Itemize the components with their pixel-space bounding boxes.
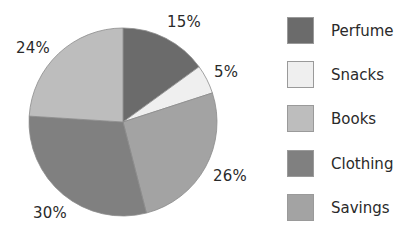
- legend-swatch-books: [287, 105, 314, 132]
- legend-swatch-savings: [287, 194, 314, 221]
- label-clothing-pct: 30%: [33, 205, 67, 221]
- legend-item-perfume: Perfume: [287, 17, 407, 45]
- legend-label-clothing: Clothing: [331, 155, 393, 173]
- legend-item-snacks: Snacks: [287, 61, 407, 89]
- legend-label-books: Books: [331, 110, 376, 128]
- legend-item-books: Books: [287, 105, 407, 133]
- legend-swatch-clothing: [287, 150, 314, 177]
- legend-label-perfume: Perfume: [331, 22, 394, 40]
- label-books-pct: 24%: [16, 40, 50, 56]
- label-perfume-pct: 15%: [167, 14, 201, 30]
- legend-item-clothing: Clothing: [287, 150, 407, 178]
- legend-label-savings: Savings: [331, 199, 390, 217]
- label-savings-pct: 26%: [213, 168, 247, 184]
- legend-swatch-perfume: [287, 17, 314, 44]
- legend-item-savings: Savings: [287, 194, 407, 222]
- label-snacks-pct: 5%: [214, 64, 238, 80]
- pie-chart: [0, 0, 260, 238]
- legend-label-snacks: Snacks: [331, 66, 384, 84]
- legend-swatch-snacks: [287, 61, 314, 88]
